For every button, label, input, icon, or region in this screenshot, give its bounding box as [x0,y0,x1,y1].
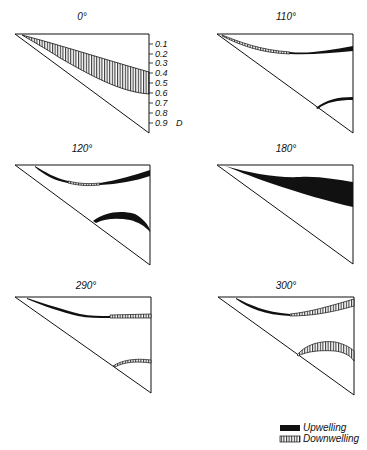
tick-label: 0.9 [155,118,168,128]
upwelling-band [236,298,290,316]
axis-label-d: D [176,118,183,128]
panel-title: 0° [77,11,87,22]
panel-title: 180° [276,143,297,154]
upwelling-band-left [35,166,68,183]
panel-120deg: 120° [15,143,150,265]
triangle-frame [217,34,353,133]
tick-label: 0.6 [155,88,168,98]
tick-label: 0.1 [155,39,168,49]
upwelling-region [225,166,353,207]
tick-label: 0.5 [155,78,169,88]
panel-title: 290° [75,280,97,291]
legend: Upwelling Downwelling [280,422,360,444]
panel-title: 120° [72,143,93,154]
tick-label: 0.4 [155,68,168,78]
legend-swatch-downwelling [280,436,300,442]
tick-label: 0.7 [155,98,169,108]
downwelling-band [110,314,151,318]
upwelling-band [27,298,110,318]
downwelling-region [22,35,149,94]
panel-110deg: 110° [217,11,353,133]
depth-axis [149,44,153,123]
legend-label-downwelling: Downwelling [303,433,360,444]
panel-300deg: 300° [218,280,354,395]
panel-title: 110° [276,11,296,22]
downwelling-band [68,181,100,186]
tick-label: 0.3 [155,58,168,68]
downwelling-arc [297,342,354,361]
figure-canvas: 0° 0.1 0.2 0.3 0.4 0.5 0.6 0.7 0.8 0.9 D [0,0,367,450]
panel-0deg: 0° 0.1 0.2 0.3 0.4 0.5 0.6 0.7 0.8 0.9 D [15,11,183,133]
tick-label: 0.8 [155,108,168,118]
legend-label-upwelling: Upwelling [303,422,347,433]
upwelling-arc [316,97,353,109]
upwelling-band [290,46,353,54]
panel-290deg: 290° [15,280,151,393]
panel-title: 300° [276,280,297,291]
triangle-frame [15,297,151,393]
legend-swatch-upwelling [280,425,300,431]
downwelling-band [290,299,354,316]
upwelling-band-right [100,170,150,185]
panel-180deg: 180° [217,143,353,264]
downwelling-arc [113,359,151,367]
